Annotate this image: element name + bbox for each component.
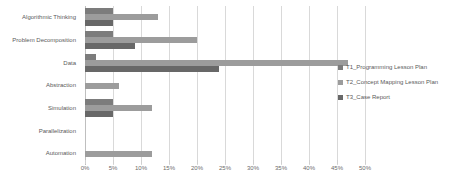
bar[interactable] (85, 151, 152, 157)
bar[interactable] (85, 66, 219, 72)
category-axis-labels: Algorithmic Thinking Problem Decompositi… (0, 6, 80, 165)
x-tick-mark (197, 160, 198, 164)
category-label: Parallelization (0, 120, 80, 143)
category-label: Problem Decomposition (0, 29, 80, 52)
bar-rows (85, 6, 365, 165)
bar-stack (85, 122, 365, 140)
x-tick-label: 30% (247, 165, 259, 171)
x-tick-mark (253, 160, 254, 164)
x-tick-label: 0% (81, 165, 90, 171)
legend-swatch-icon (338, 80, 343, 85)
legend-label: T2_Concept Mapping Lesson Plan (346, 79, 438, 85)
x-tick-mark (225, 160, 226, 164)
bar-chart: Algorithmic Thinking Problem Decompositi… (0, 0, 461, 193)
x-tick-label: 10% (135, 165, 147, 171)
x-tick-mark (337, 160, 338, 164)
x-tick-label: 20% (191, 165, 203, 171)
x-tick-mark (113, 160, 114, 164)
x-tick-label: 25% (219, 165, 231, 171)
legend-item-t3[interactable]: T3_Case Report (338, 94, 438, 100)
bar-stack (85, 8, 365, 26)
legend-item-t2[interactable]: T2_Concept Mapping Lesson Plan (338, 79, 438, 85)
legend-swatch-icon (338, 95, 343, 100)
x-tick-mark (169, 160, 170, 164)
bar[interactable] (85, 43, 135, 49)
bar-group (85, 51, 365, 74)
bar-group (85, 120, 365, 143)
legend-item-t1[interactable]: T1_Programming Lesson Plan (338, 64, 438, 70)
bar[interactable] (85, 111, 113, 117)
x-tick-label: 35% (275, 165, 287, 171)
legend: T1_Programming Lesson Plan T2_Concept Ma… (338, 64, 438, 100)
x-tick-mark (365, 160, 366, 164)
x-tick-label: 40% (303, 165, 315, 171)
x-tick-label: 15% (163, 165, 175, 171)
x-tick-label: 45% (331, 165, 343, 171)
category-label: Abstraction (0, 74, 80, 97)
bar-stack (85, 31, 365, 49)
x-tick-mark (309, 160, 310, 164)
bar-group (85, 97, 365, 120)
bar-group (85, 74, 365, 97)
legend-swatch-icon (338, 65, 343, 70)
x-tick-label: 50% (359, 165, 371, 171)
category-label: Data (0, 51, 80, 74)
category-label: Simulation (0, 97, 80, 120)
bar[interactable] (85, 83, 119, 89)
x-axis: 0%5%10%15%20%25%30%35%40%45%50% (85, 165, 365, 185)
bar-group (85, 29, 365, 52)
x-tick-label: 5% (109, 165, 118, 171)
plot-area (85, 6, 365, 165)
category-label: Automation (0, 142, 80, 165)
bar[interactable] (85, 20, 113, 26)
legend-label: T1_Programming Lesson Plan (346, 64, 427, 70)
bar-stack (85, 77, 365, 95)
bar-stack (85, 99, 365, 117)
category-label: Algorithmic Thinking (0, 6, 80, 29)
x-tick-mark (141, 160, 142, 164)
x-tick-mark (85, 160, 86, 164)
x-tick-mark (281, 160, 282, 164)
bar-group (85, 6, 365, 29)
bar-stack (85, 54, 365, 72)
legend-label: T3_Case Report (346, 94, 390, 100)
